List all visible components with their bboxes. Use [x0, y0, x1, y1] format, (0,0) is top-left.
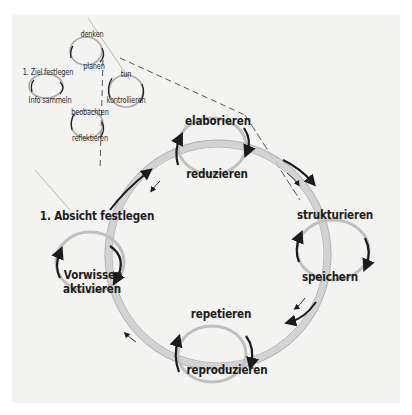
label-absicht-festlegen: 1. Absicht festlegen	[40, 209, 154, 223]
label-aktivieren: aktivieren	[63, 282, 121, 296]
label-kontrollieren: kontrollieren	[106, 96, 145, 105]
label-ziel-festlegen: 1. Ziel festlegen	[23, 68, 73, 77]
label-speichern: speichern	[302, 270, 358, 284]
label-repetieren: repetieren	[191, 307, 251, 321]
label-tun: tun	[121, 70, 131, 79]
label-vorwissen: Vorwissen	[64, 268, 122, 282]
label-reflektieren: reflektieren	[72, 134, 108, 143]
label-info-sammeln: Info sammeln	[29, 96, 72, 105]
label-strukturieren: strukturieren	[297, 208, 373, 222]
label-elaborieren: elaborieren	[185, 114, 251, 128]
label-denken: denken	[80, 30, 103, 39]
label-planen: planen	[83, 62, 104, 71]
label-reduzieren: reduzieren	[186, 167, 248, 181]
label-beobachten: beobachten	[71, 108, 108, 117]
label-reproduzieren: reproduzieren	[187, 363, 268, 377]
